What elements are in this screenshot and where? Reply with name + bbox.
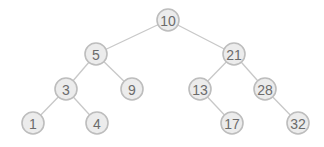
tree-node-4: 4	[86, 112, 108, 134]
tree-node-13: 13	[189, 78, 211, 100]
node-label: 32	[290, 116, 306, 132]
tree-edge-10-5	[96, 20, 168, 54]
tree-node-1: 1	[22, 112, 44, 134]
binary-tree-diagram: 10521391328141732	[0, 0, 324, 147]
tree-node-5: 5	[85, 43, 107, 65]
node-label: 1	[29, 116, 37, 132]
tree-node-9: 9	[121, 78, 143, 100]
node-label: 13	[192, 82, 208, 98]
nodes-layer: 10521391328141732	[22, 9, 309, 134]
edges-layer	[33, 20, 298, 123]
node-label: 5	[92, 47, 100, 63]
tree-node-28: 28	[254, 78, 276, 100]
node-label: 3	[62, 82, 70, 98]
node-label: 21	[226, 47, 242, 63]
tree-node-10: 10	[157, 9, 179, 31]
tree-node-3: 3	[55, 78, 77, 100]
tree-node-32: 32	[287, 112, 309, 134]
tree-canvas: 10521391328141732	[0, 0, 324, 147]
node-label: 17	[224, 116, 240, 132]
node-label: 10	[160, 13, 176, 29]
node-label: 28	[257, 82, 273, 98]
node-label: 9	[128, 82, 136, 98]
node-label: 4	[93, 116, 101, 132]
tree-node-21: 21	[223, 43, 245, 65]
tree-node-17: 17	[221, 112, 243, 134]
